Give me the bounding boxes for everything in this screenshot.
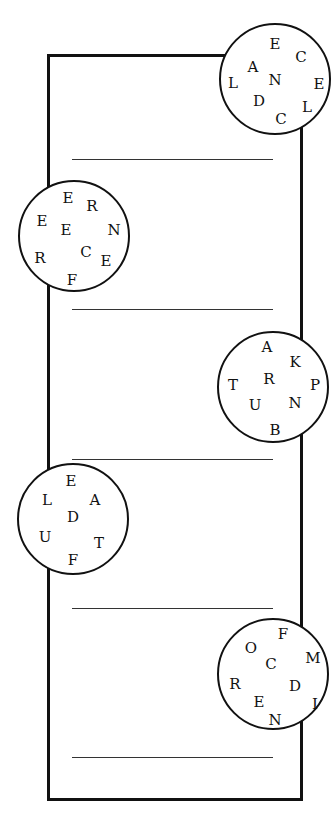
answer-line-5[interactable] bbox=[72, 757, 273, 758]
scrambled-letter: F bbox=[68, 553, 78, 568]
scrambled-letter: F bbox=[278, 627, 288, 642]
scrambled-letter: D bbox=[67, 510, 79, 525]
letter-circle-4: ELADUTF bbox=[17, 463, 129, 575]
scrambled-letter: C bbox=[80, 245, 91, 260]
scrambled-letter: L bbox=[228, 76, 238, 91]
scrambled-letter: P bbox=[310, 378, 320, 393]
answer-line-1[interactable] bbox=[72, 159, 273, 160]
letter-circle-1: ECALNEDLC bbox=[219, 23, 331, 135]
scrambled-letter: C bbox=[275, 112, 286, 127]
scrambled-letter: O bbox=[245, 641, 257, 656]
scrambled-letter: A bbox=[90, 493, 101, 508]
scrambled-letter: N bbox=[268, 73, 281, 88]
scrambled-letter: C bbox=[265, 657, 276, 672]
scrambled-letter: N bbox=[268, 713, 281, 728]
scrambled-letter: D bbox=[253, 94, 265, 109]
scrambled-letter: R bbox=[263, 372, 274, 387]
scrambled-letter: T bbox=[228, 378, 238, 393]
letter-circle-2: EREENRCEF bbox=[18, 180, 130, 292]
scrambled-letter: E bbox=[61, 223, 72, 238]
answer-line-4[interactable] bbox=[72, 608, 273, 609]
scrambled-letter: E bbox=[254, 695, 265, 710]
scrambled-letter: F bbox=[67, 273, 77, 288]
scrambled-letter: R bbox=[34, 251, 45, 266]
scrambled-letter: U bbox=[249, 398, 262, 413]
scrambled-letter: T bbox=[94, 536, 104, 551]
scrambled-letter: A bbox=[262, 340, 273, 355]
scrambled-letter: K bbox=[289, 355, 300, 370]
letter-circle-5: FOMCRDEIN bbox=[217, 618, 329, 730]
scrambled-letter: L bbox=[302, 100, 312, 115]
scrambled-letter: D bbox=[289, 679, 301, 694]
scrambled-letter: E bbox=[37, 214, 48, 229]
scrambled-letter: N bbox=[107, 223, 120, 238]
letter-circle-3: AKTRPUNB bbox=[217, 331, 329, 443]
answer-line-3[interactable] bbox=[72, 459, 273, 460]
scrambled-letter: L bbox=[42, 493, 52, 508]
scrambled-letter: E bbox=[314, 77, 325, 92]
scrambled-letter: E bbox=[66, 474, 77, 489]
answer-line-2[interactable] bbox=[72, 309, 273, 310]
scrambled-letter: A bbox=[248, 60, 259, 75]
scrambled-letter: B bbox=[269, 423, 280, 438]
scrambled-letter: I bbox=[312, 697, 318, 712]
scrambled-letter: R bbox=[86, 199, 97, 214]
scrambled-letter: E bbox=[63, 191, 74, 206]
scrambled-letter: M bbox=[305, 651, 320, 666]
scrambled-letter: C bbox=[295, 50, 306, 65]
scrambled-letter: E bbox=[270, 37, 281, 52]
scrambled-letter: N bbox=[288, 396, 301, 411]
scrambled-letter: U bbox=[39, 530, 52, 545]
scrambled-letter: E bbox=[101, 254, 112, 269]
scrambled-letter: R bbox=[229, 677, 240, 692]
